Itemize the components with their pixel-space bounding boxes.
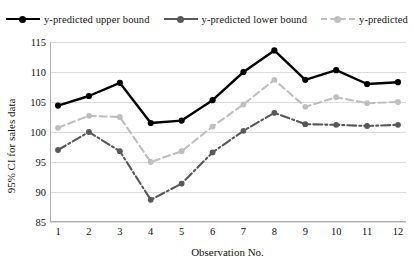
- series-line-1: [58, 113, 398, 200]
- data-point[interactable]: [302, 121, 308, 127]
- data-point[interactable]: [210, 150, 216, 156]
- legend-swatch-lower-bound: [164, 14, 198, 24]
- data-point[interactable]: [117, 148, 123, 154]
- data-point[interactable]: [364, 100, 370, 106]
- data-point[interactable]: [86, 113, 92, 119]
- chart-legend: y-predicted upper bound y-predicted lowe…: [0, 8, 414, 30]
- x-tick-label: 8: [272, 226, 277, 237]
- line-chart: y-predicted upper bound y-predicted lowe…: [0, 0, 414, 273]
- legend-item-predicted[interactable]: y-predicted: [321, 14, 408, 25]
- data-point[interactable]: [117, 80, 123, 86]
- data-point[interactable]: [209, 97, 215, 103]
- data-point[interactable]: [179, 181, 185, 187]
- data-point[interactable]: [271, 110, 277, 116]
- data-point[interactable]: [395, 79, 401, 85]
- x-tick-label: 3: [117, 226, 122, 237]
- x-tick-label: 1: [55, 226, 60, 237]
- legend-label-predicted: y-predicted: [359, 14, 408, 25]
- x-tick-label: 11: [362, 226, 372, 237]
- plot-area: [50, 42, 406, 222]
- legend-label-lower-bound: y-predicted lower bound: [202, 14, 308, 25]
- y-tick-label: 85: [20, 217, 46, 228]
- data-point[interactable]: [333, 67, 339, 73]
- x-tick-label: 2: [86, 226, 91, 237]
- y-axis-tick-labels: 859095100105110115: [20, 30, 46, 230]
- x-axis-title: Observation No.: [45, 246, 410, 258]
- data-point[interactable]: [55, 103, 61, 109]
- x-axis-tick-labels: 123456789101112: [50, 226, 406, 242]
- data-point[interactable]: [364, 123, 370, 129]
- data-point[interactable]: [395, 99, 401, 105]
- y-tick-label: 105: [20, 97, 46, 108]
- data-point[interactable]: [210, 124, 216, 130]
- data-point[interactable]: [117, 114, 123, 120]
- data-point[interactable]: [148, 197, 154, 203]
- data-point[interactable]: [240, 69, 246, 75]
- legend-label-upper-bound: y-predicted upper bound: [44, 14, 150, 25]
- data-point[interactable]: [364, 81, 370, 87]
- data-point[interactable]: [86, 129, 92, 135]
- legend-item-lower-bound[interactable]: y-predicted lower bound: [164, 14, 308, 25]
- data-point[interactable]: [55, 125, 61, 131]
- data-point[interactable]: [271, 77, 277, 83]
- gridline: [50, 222, 406, 223]
- x-tick-label: 7: [241, 226, 246, 237]
- legend-swatch-predicted: [321, 14, 355, 24]
- data-point[interactable]: [148, 159, 154, 165]
- data-point[interactable]: [302, 104, 308, 110]
- data-point[interactable]: [148, 120, 154, 126]
- series-line-0: [58, 50, 398, 123]
- data-point[interactable]: [179, 148, 185, 154]
- legend-item-upper-bound[interactable]: y-predicted upper bound: [6, 14, 150, 25]
- data-point[interactable]: [271, 47, 277, 53]
- y-tick-label: 90: [20, 187, 46, 198]
- x-tick-label: 12: [393, 226, 404, 237]
- y-axis-title-text: 95% CI for sales data: [5, 99, 17, 194]
- data-point[interactable]: [395, 122, 401, 128]
- x-tick-label: 6: [210, 226, 215, 237]
- plot-wrapper: 95% CI for sales data 859095100105110115…: [0, 30, 414, 273]
- y-tick-label: 110: [20, 67, 46, 78]
- data-point[interactable]: [179, 118, 185, 124]
- data-point[interactable]: [241, 102, 247, 108]
- y-tick-label: 100: [20, 127, 46, 138]
- y-axis-title: 95% CI for sales data: [2, 66, 20, 226]
- data-point[interactable]: [241, 128, 247, 134]
- y-tick-label: 95: [20, 157, 46, 168]
- x-tick-label: 9: [303, 226, 308, 237]
- x-tick-label: 10: [331, 226, 342, 237]
- data-point[interactable]: [55, 147, 61, 153]
- data-point[interactable]: [333, 122, 339, 128]
- series-line-2: [58, 80, 398, 162]
- series-layer: [50, 42, 406, 222]
- x-tick-label: 4: [148, 226, 153, 237]
- x-tick-label: 5: [179, 226, 184, 237]
- data-point[interactable]: [86, 93, 92, 99]
- data-point[interactable]: [333, 94, 339, 100]
- legend-swatch-upper-bound: [6, 14, 40, 24]
- data-point[interactable]: [302, 77, 308, 83]
- y-tick-label: 115: [20, 37, 46, 48]
